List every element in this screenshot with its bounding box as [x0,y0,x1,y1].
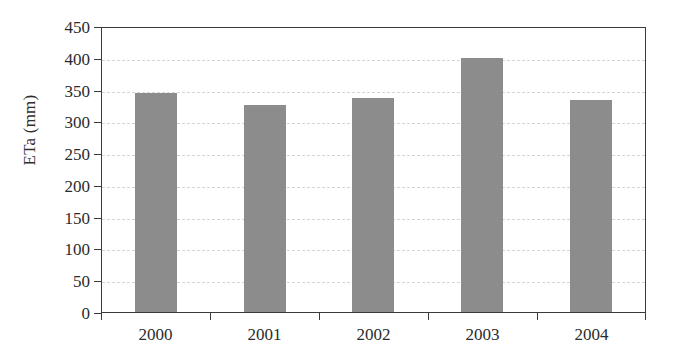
x-axis-tick-mark [101,313,102,320]
x-axis-tick-mark [319,313,320,320]
y-axis-tick-label: 100 [65,241,91,258]
x-axis-tick-label-2001: 2001 [210,322,319,348]
x-axis-tick-label-2002: 2002 [319,322,428,348]
y-axis-tick-label: 0 [82,305,91,322]
y-axis-tick-label: 200 [65,177,91,194]
bar-2002[interactable] [352,98,394,312]
bar-slot [102,28,211,312]
bar-slot [536,28,645,312]
y-axis-tick-label: 250 [65,146,91,163]
y-axis-tick-labels: 050100150200250300350400450 [36,27,96,313]
bar-2001[interactable] [244,105,286,312]
x-axis-tick-labels: 20002001200220032004 [101,322,646,348]
y-axis-tick-label: 300 [65,114,91,131]
x-axis-tick-label-2004: 2004 [537,322,646,348]
x-axis-tick-mark [537,313,538,320]
y-axis-tick-label: 150 [65,209,91,226]
y-axis-tick-label: 50 [73,273,90,290]
y-axis-tick-label: 400 [65,50,91,67]
x-axis-tick-mark [428,313,429,320]
bar-2004[interactable] [570,100,612,312]
x-axis-tick-mark [645,313,646,320]
y-axis-tick-label: 350 [65,82,91,99]
bar-slot [211,28,320,312]
x-axis-tick-marks [101,313,646,320]
x-axis-tick-mark [210,313,211,320]
bars-layer [102,28,645,312]
bar-slot [319,28,428,312]
bar-2000[interactable] [135,93,177,312]
bar-chart-figure: ETa (mm) 050100150200250300350400450 200… [0,0,682,364]
bar-2003[interactable] [461,58,503,312]
bar-slot [428,28,537,312]
plot-area [101,27,646,313]
x-axis-tick-label-2000: 2000 [101,322,210,348]
y-axis-tick-label: 450 [65,19,91,36]
x-axis-tick-label-2003: 2003 [428,322,537,348]
